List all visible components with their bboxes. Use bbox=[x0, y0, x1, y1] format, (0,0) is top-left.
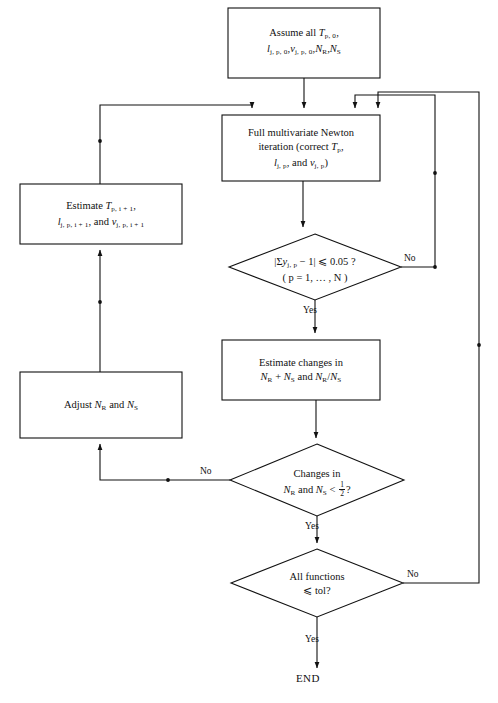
junction-dot-checky-no bbox=[433, 265, 437, 269]
edge-checktol-no-loop-to-newton bbox=[378, 92, 479, 583]
flowchart-canvas bbox=[0, 0, 498, 703]
junction-dot-checkchanges-no bbox=[166, 478, 170, 482]
edge-label-checkchanges-yes: Yes bbox=[305, 521, 319, 531]
junction-dot-adjust-up bbox=[98, 300, 102, 304]
node-start-shape bbox=[228, 8, 380, 78]
edge-label-checkchanges-no: No bbox=[200, 466, 212, 476]
edge-label-checktol-no: No bbox=[407, 569, 419, 579]
node-newton-shape bbox=[222, 115, 380, 181]
node-end-label: END bbox=[296, 672, 320, 684]
node-check-tol-shape bbox=[231, 549, 403, 617]
junction-dot-checky-mid bbox=[433, 171, 437, 175]
node-adjust-shape bbox=[20, 372, 182, 438]
edge-label-checky-yes: Yes bbox=[303, 305, 317, 315]
edge-label-checktol-yes: Yes bbox=[305, 634, 319, 644]
junction-dot-checktol-mid bbox=[477, 343, 481, 347]
junction-dot-estimate-up bbox=[98, 139, 102, 143]
node-check-y-shape bbox=[229, 234, 401, 300]
node-estimate-changes-shape bbox=[222, 340, 380, 400]
edge-label-checky-no: No bbox=[404, 253, 416, 263]
node-estimate-tlv-shape bbox=[20, 184, 182, 244]
node-check-changes-shape bbox=[230, 444, 404, 516]
